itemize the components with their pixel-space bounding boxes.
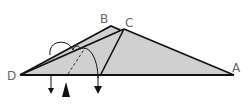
arrowhead-down-icon [94,86,102,94]
origami-diagram: B C D A [0,0,251,110]
label-d: D [7,69,16,83]
paper-shape [20,26,234,76]
mountain-marker-icon [62,82,70,97]
label-a: A [232,61,241,75]
arrowhead-down-icon [48,88,54,94]
label-c: C [125,16,133,30]
label-b: B [100,12,108,26]
